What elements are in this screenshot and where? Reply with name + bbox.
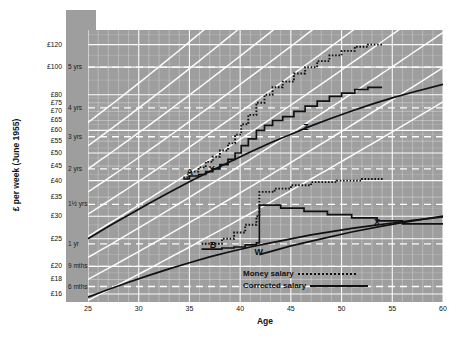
x-axis-tick-label: 35 bbox=[186, 305, 194, 312]
time-span-label: 5 yrs bbox=[68, 63, 82, 70]
y-axis-tick-label: £18 bbox=[18, 275, 62, 282]
time-span-axis-title bbox=[66, 10, 96, 32]
annotation-point-y: Y bbox=[209, 164, 215, 174]
legend-label-corrected-salary: Corrected salary bbox=[243, 280, 306, 292]
x-axis-tick-label: 25 bbox=[84, 305, 92, 312]
chart-svg bbox=[88, 30, 443, 302]
data-series-solid bbox=[259, 216, 443, 254]
y-axis-tick-label: £80 bbox=[18, 91, 62, 98]
x-axis-tick-label: 55 bbox=[388, 305, 396, 312]
annotation-point-b: B bbox=[210, 240, 217, 250]
y-axis-tick-label: £16 bbox=[18, 290, 62, 297]
time-span-label: 4 yrs bbox=[68, 104, 82, 111]
y-axis-tick-label: £50 bbox=[18, 149, 62, 156]
legend-swatch-dotted bbox=[298, 273, 356, 275]
y-axis-tick-label: £30 bbox=[18, 212, 62, 219]
x-axis-tick-label: 40 bbox=[236, 305, 244, 312]
time-span-label: 2 yrs bbox=[68, 165, 82, 172]
time-span-label: 3 yrs bbox=[68, 133, 82, 140]
legend-swatch-solid bbox=[310, 285, 368, 287]
x-axis-tick-label: 60 bbox=[439, 305, 447, 312]
x-axis-title: Age bbox=[257, 316, 273, 326]
legend-label-money-salary: Money salary bbox=[243, 268, 294, 280]
x-axis-tick-label: 30 bbox=[135, 305, 143, 312]
y-axis-tick-label: £55 bbox=[18, 137, 62, 144]
time-span-label: 9 mths bbox=[68, 262, 88, 269]
y-axis-tick-label: £35 bbox=[18, 193, 62, 200]
time-span-label: 1 yr bbox=[68, 240, 79, 247]
time-span-label: 6 mths bbox=[68, 283, 88, 290]
y-axis-tick-labels: £16£18£20£25£30£35£40£45£50£55£60£65£70£… bbox=[18, 0, 62, 347]
y-axis-tick-label: £120 bbox=[18, 41, 62, 48]
annotation-point-x: X bbox=[374, 217, 380, 227]
chart-plot-area: AYZBWX bbox=[88, 30, 443, 302]
chart-legend: Money salary Corrected salary bbox=[243, 268, 368, 292]
y-axis-tick-label: £65 bbox=[18, 116, 62, 123]
annotation-point-z: Z bbox=[303, 122, 309, 132]
x-axis-tick-label: 45 bbox=[287, 305, 295, 312]
time-span-label: 1½ yrs bbox=[68, 200, 88, 207]
y-axis-tick-label: £20 bbox=[18, 262, 62, 269]
data-series-solid bbox=[202, 205, 443, 249]
annotation-point-w: W bbox=[254, 247, 263, 257]
x-axis-tick-label: 50 bbox=[338, 305, 346, 312]
legend-item-corrected-salary: Corrected salary bbox=[243, 280, 368, 292]
y-axis-tick-label: £70 bbox=[18, 107, 62, 114]
y-axis-tick-label: £40 bbox=[18, 177, 62, 184]
capacity-progression-curve bbox=[88, 65, 443, 280]
annotation-point-a: A bbox=[186, 167, 193, 177]
legend-item-money-salary: Money salary bbox=[243, 268, 368, 280]
y-axis-tick-label: £60 bbox=[18, 126, 62, 133]
capacity-progression-curve bbox=[88, 30, 220, 122]
y-axis-tick-label: £25 bbox=[18, 235, 62, 242]
y-axis-tick-label: £45 bbox=[18, 162, 62, 169]
capacity-progression-curve bbox=[88, 30, 255, 146]
y-axis-tick-label: £75 bbox=[18, 99, 62, 106]
y-axis-tick-label: £100 bbox=[18, 63, 62, 70]
